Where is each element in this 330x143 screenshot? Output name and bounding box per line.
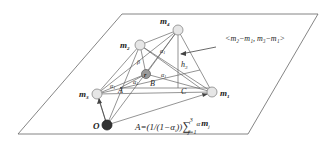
label-origin: O: [93, 121, 100, 131]
label-m3: m3: [79, 89, 89, 100]
label-alpha-top: α1: [160, 48, 165, 55]
label-alpha-far-left: α1: [110, 83, 115, 90]
node-m2[interactable]: [135, 40, 145, 50]
label-A: A: [117, 86, 123, 95]
label-B: B: [150, 79, 155, 88]
annotation-arrow: [180, 47, 216, 56]
geometry-diagram: m1 m2 m3 m4 r O A B C h3 α1 α1 α1 α1 β <…: [0, 0, 330, 143]
formula: A=(1/(1−αi))∑3j=1αmj: [134, 117, 210, 135]
label-beta: β: [136, 59, 140, 65]
label-m1: m1: [220, 88, 230, 99]
label-m2: m2: [120, 40, 130, 51]
label-C: C: [181, 87, 187, 96]
cross-product-annotation: <m₂−m₁, m₃−m₁>: [225, 34, 285, 43]
node-m4[interactable]: [173, 25, 183, 35]
node-origin[interactable]: [102, 120, 112, 130]
label-alpha-left: α1: [133, 79, 138, 86]
label-h3: h3: [181, 60, 188, 70]
plane: [18, 14, 318, 134]
edges: [97, 30, 212, 125]
node-m3[interactable]: [92, 89, 102, 99]
node-m1[interactable]: [207, 87, 217, 97]
vector-arrow: [97, 98, 106, 122]
label-alpha-right: α1: [161, 72, 166, 79]
diagram-canvas: m1 m2 m3 m4 r O A B C h3 α1 α1 α1 α1 β <…: [0, 0, 330, 143]
label-m4: m4: [160, 16, 170, 27]
